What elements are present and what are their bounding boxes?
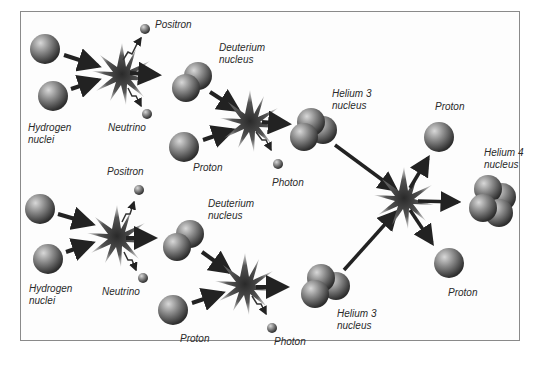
label-deuterium-bottom: Deuterium nucleus xyxy=(208,198,254,222)
top-chain xyxy=(30,24,337,169)
fusion-diagram xyxy=(0,0,540,367)
label-photon-top: Photon xyxy=(272,177,304,189)
hydrogen-nucleus-icon xyxy=(33,244,63,274)
label-photon-bottom: Photon xyxy=(274,336,306,348)
hydrogen-nucleus-icon xyxy=(38,81,68,111)
label-positron-bottom: Positron xyxy=(107,166,144,178)
label-deuterium-top: Deuterium nucleus xyxy=(219,42,265,66)
hydrogen-nucleus-icon xyxy=(25,194,55,224)
proton-icon xyxy=(434,248,464,278)
label-proton-out-bottom: Proton xyxy=(448,287,477,299)
fusion-burst-icon xyxy=(215,253,275,315)
label-helium3-bottom: Helium 3 nucleus xyxy=(337,308,376,332)
helium3-nucleus-icon xyxy=(290,108,337,151)
deuterium-nucleus-icon xyxy=(163,220,204,261)
photon-icon xyxy=(273,159,283,169)
photon-icon xyxy=(267,323,277,333)
label-hydrogen-nuclei-bottom: Hydrogen nuclei xyxy=(29,283,72,307)
label-hydrogen-nuclei-top: Hydrogen nuclei xyxy=(28,122,71,146)
hydrogen-nucleus-icon xyxy=(30,34,60,64)
fusion-burst-icon xyxy=(374,167,434,229)
final-fusion xyxy=(335,122,516,278)
label-proton-bottom: Proton xyxy=(180,333,209,345)
label-helium3-top: Helium 3 nucleus xyxy=(332,88,371,112)
label-helium4: Helium 4 nucleus xyxy=(484,147,523,171)
label-proton-top: Proton xyxy=(193,162,222,174)
neutrino-icon xyxy=(138,273,148,283)
positron-icon xyxy=(134,185,144,195)
label-neutrino-top: Neutrino xyxy=(108,122,146,134)
deuterium-nucleus-icon xyxy=(172,62,212,102)
proton-icon xyxy=(424,122,454,152)
neutrino-icon xyxy=(142,109,152,119)
positron-icon xyxy=(140,24,150,34)
label-proton-out-top: Proton xyxy=(435,101,464,113)
proton-icon xyxy=(169,132,199,162)
helium4-nucleus-icon xyxy=(469,175,516,227)
helium3-nucleus-icon xyxy=(301,264,350,308)
proton-icon xyxy=(158,295,188,325)
label-neutrino-bottom: Neutrino xyxy=(102,286,140,298)
label-positron-top: Positron xyxy=(155,19,192,31)
bottom-chain xyxy=(25,185,350,333)
